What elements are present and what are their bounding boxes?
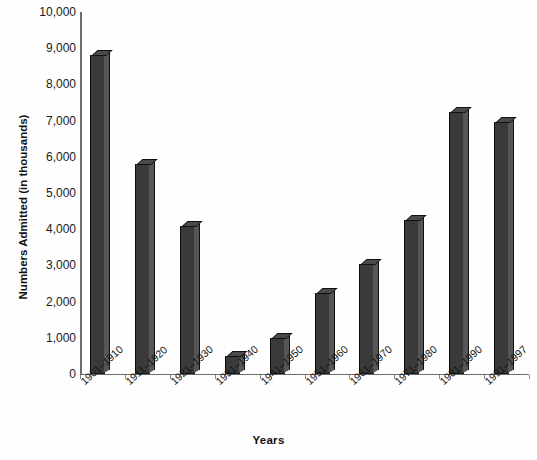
y-axis-tick-label: 4,000	[6, 222, 76, 236]
y-axis-tick-label: 10,000	[6, 5, 76, 19]
x-axis-title: Years	[0, 434, 537, 446]
bar	[135, 164, 150, 374]
y-axis-tick-label: 7,000	[6, 114, 76, 128]
y-axis-tick-label: 2,000	[6, 295, 76, 309]
y-axis-tick-label: 6,000	[6, 150, 76, 164]
y-axis-tick-label: 9,000	[6, 41, 76, 55]
y-axis-tick-label: 1,000	[6, 331, 76, 345]
y-axis-tick-label: 8,000	[6, 77, 76, 91]
bar	[404, 220, 419, 374]
y-axis-tick-label: 0	[6, 367, 76, 381]
bar	[494, 122, 509, 374]
bar-side-face	[508, 119, 514, 373]
bar	[90, 55, 105, 374]
bar-slot	[494, 122, 515, 374]
bar-slot	[449, 112, 470, 374]
y-axis-tick-label: 5,000	[6, 186, 76, 200]
bar	[180, 226, 195, 374]
bar-slot	[90, 55, 111, 374]
bar	[449, 112, 464, 374]
bar-side-face	[463, 108, 469, 373]
bar-series	[80, 12, 529, 374]
bar-side-face	[104, 52, 110, 373]
y-axis-tick-labels: 10,0009,0008,0007,0006,0005,0004,0003,00…	[6, 0, 76, 460]
plot-area	[80, 12, 529, 375]
bar-chart: Numbers Admitted (in thousands) 10,0009,…	[0, 0, 537, 460]
bar-slot	[135, 164, 156, 374]
y-axis-tick-label: 3,000	[6, 258, 76, 272]
bar-side-face	[149, 161, 155, 373]
x-axis-tick-labels: 1901–19101911–19201921–19301931–19401941…	[80, 378, 537, 436]
